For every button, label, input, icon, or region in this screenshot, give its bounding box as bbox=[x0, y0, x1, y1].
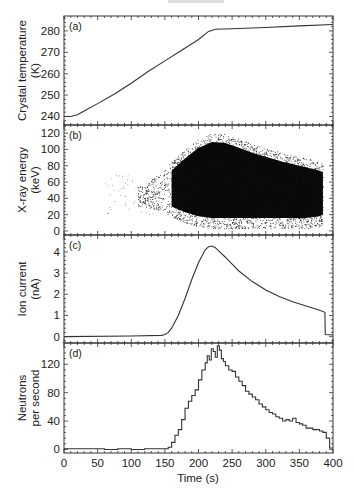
x-axis: 050100150200250300350400 bbox=[61, 457, 343, 469]
data-line bbox=[64, 246, 333, 337]
panel-neutrons-per-second: 04080120(d)Neutronsper second bbox=[16, 343, 333, 455]
y-tick-label: 270 bbox=[41, 46, 60, 58]
panel-ion-current: 01234(c)Ion current(nA) bbox=[16, 235, 333, 343]
y-tick-label: 0 bbox=[54, 225, 60, 237]
y-tick-label: 20 bbox=[47, 209, 60, 221]
y-tick-label: 280 bbox=[41, 25, 60, 37]
x-tick-label: 200 bbox=[189, 457, 208, 469]
y-tick-label: 100 bbox=[41, 143, 60, 155]
y-tick-label: 120 bbox=[41, 127, 60, 139]
plot-frame bbox=[64, 235, 333, 343]
y-axis-title: Ion current(nA) bbox=[16, 261, 41, 317]
y-axis-title: Crystal temperature(K) bbox=[16, 20, 41, 121]
y-tick-label: 40 bbox=[47, 415, 60, 427]
x-tick-label: 0 bbox=[61, 457, 67, 469]
y-tick-label: 0 bbox=[54, 331, 60, 343]
plot-frame bbox=[64, 343, 333, 453]
panel-xray-energy: 020406080100120(b)X-ray energy(keV) bbox=[16, 125, 333, 237]
y-tick-label: 250 bbox=[41, 89, 60, 101]
y-tick-label: 120 bbox=[41, 358, 60, 370]
y-tick-label: 80 bbox=[47, 387, 60, 399]
y-tick-label: 4 bbox=[54, 246, 61, 258]
x-tick-label: 250 bbox=[223, 457, 242, 469]
y-axis-title: Neutronsper second bbox=[16, 370, 41, 427]
x-tick-label: 300 bbox=[256, 457, 275, 469]
y-tick-label: 60 bbox=[47, 176, 60, 188]
panel-label: (b) bbox=[69, 129, 82, 141]
data-line bbox=[64, 25, 333, 117]
figure: 240250260270280(a)Crystal temperature(K)… bbox=[0, 0, 354, 492]
panel-label: (c) bbox=[69, 239, 81, 251]
y-tick-label: 80 bbox=[47, 160, 60, 172]
y-tick-label: 260 bbox=[41, 68, 60, 80]
y-tick-label: 0 bbox=[54, 443, 60, 455]
panel-label: (d) bbox=[69, 347, 82, 359]
x-tick-label: 50 bbox=[91, 457, 104, 469]
x-tick-label: 400 bbox=[323, 457, 342, 469]
panel-label: (a) bbox=[69, 20, 82, 32]
y-tick-label: 2 bbox=[54, 288, 60, 300]
x-axis-title: Time (s) bbox=[177, 472, 219, 484]
panel-crystal-temperature: 240250260270280(a)Crystal temperature(K) bbox=[16, 16, 333, 125]
plot-frame bbox=[64, 16, 333, 125]
x-tick-label: 150 bbox=[155, 457, 174, 469]
y-tick-label: 40 bbox=[47, 192, 60, 204]
y-tick-label: 3 bbox=[54, 267, 60, 279]
x-tick-label: 100 bbox=[122, 457, 141, 469]
y-axis-title: X-ray energy(keV) bbox=[16, 147, 41, 213]
y-tick-label: 1 bbox=[54, 309, 60, 321]
x-tick-label: 350 bbox=[290, 457, 309, 469]
y-tick-label: 240 bbox=[41, 110, 60, 122]
data-line bbox=[64, 346, 333, 450]
